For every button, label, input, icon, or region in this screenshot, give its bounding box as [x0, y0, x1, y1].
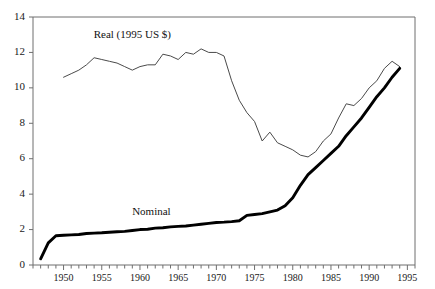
y-tick-label: 2	[20, 222, 26, 234]
x-tick-label: 1955	[92, 272, 112, 283]
x-tick-label: 1950	[54, 272, 74, 283]
chart-series-lines	[41, 49, 400, 259]
x-tick-label: 1960	[130, 272, 150, 283]
y-axis-tick-labels: 02468101214	[14, 10, 26, 270]
economic-line-chart: 02468101214 1950195519601965197019751980…	[0, 0, 435, 289]
x-tick-label: 1970	[206, 272, 226, 283]
y-tick-label: 4	[20, 187, 26, 199]
x-tick-label: 1985	[321, 272, 341, 283]
chart-series-annotations: Real (1995 US $)Nominal	[94, 28, 172, 217]
x-tick-label: 1995	[397, 272, 417, 283]
x-axis-tick-labels: 1950195519601965197019751980198519901995	[54, 272, 418, 283]
y-tick-label: 0	[20, 258, 26, 270]
chart-page: 02468101214 1950195519601965197019751980…	[0, 0, 435, 289]
x-tick-label: 1965	[168, 272, 188, 283]
y-tick-label: 10	[14, 80, 26, 92]
x-tick-label: 1980	[283, 272, 303, 283]
series-line-real-1995-us	[64, 49, 400, 157]
series-line-nominal	[41, 68, 400, 258]
series-label-nominal: Nominal	[132, 205, 171, 217]
y-tick-label: 14	[14, 10, 26, 22]
y-tick-label: 12	[14, 45, 25, 57]
plot-frame	[33, 17, 415, 265]
x-tick-label: 1990	[359, 272, 379, 283]
x-tick-label: 1975	[245, 272, 265, 283]
y-tick-label: 6	[20, 151, 26, 163]
y-tick-label: 8	[20, 116, 26, 128]
series-label-real-1995-us: Real (1995 US $)	[94, 28, 172, 41]
chart-axes	[33, 17, 415, 265]
